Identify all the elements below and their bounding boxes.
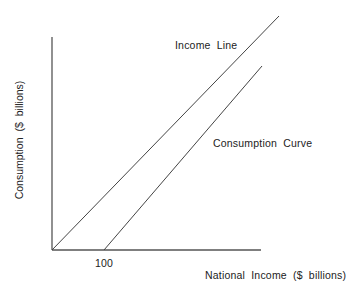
income-line xyxy=(52,16,279,250)
income-line-label: Income Line xyxy=(175,39,237,51)
consumption-curve xyxy=(104,66,262,250)
x-tick-100: 100 xyxy=(95,257,113,269)
consumption-curve-label: Consumption Curve xyxy=(213,137,312,149)
x-axis-label: National Income ($ billions) xyxy=(205,269,346,281)
y-axis-label: Consumption ($ billions) xyxy=(13,81,25,200)
